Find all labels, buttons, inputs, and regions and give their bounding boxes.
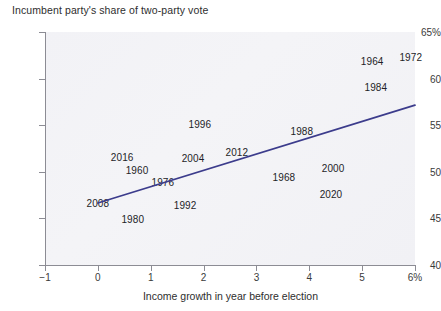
x-axis-tick-0 [98,266,99,271]
x-axis-tick-5 [362,266,363,271]
data-point-1972: 1972 [399,52,422,63]
x-axis-tick-label-3: 3 [254,272,260,283]
data-point-1996: 1996 [189,119,212,130]
y-axis-tick-label-65%: 65% [407,27,441,38]
x-axis-tick-label-1: 1 [148,272,154,283]
data-point-1960: 1960 [126,164,149,175]
y-axis-tick-label-45: 45 [407,213,441,224]
y-axis-tick-50 [39,172,45,173]
y-axis-tick-label-60: 60 [407,73,441,84]
y-axis-tick-label-40: 40 [407,260,441,271]
x-axis-tick-label-4: 4 [307,272,313,283]
chart-container: Incumbent party's share of two-party vot… [0,0,441,311]
data-point-1988: 1988 [291,125,314,136]
y-axis-tick-label-50: 50 [407,166,441,177]
x-axis-tick-4 [309,266,310,271]
y-axis-tick-55 [39,125,45,126]
y-axis-line [45,32,46,266]
data-point-1984: 1984 [365,81,388,92]
x-axis-tick-6% [415,266,416,271]
chart-title: Incumbent party's share of two-party vot… [12,4,208,16]
y-axis-tick-65% [39,32,45,33]
x-axis-tick-label-0: 0 [95,272,101,283]
data-point-2016: 2016 [111,151,134,162]
x-axis-tick-2 [204,266,205,271]
data-point-2004: 2004 [182,152,205,163]
x-axis-tick-label-2: 2 [201,272,207,283]
x-axis-tick-label-−1: −1 [39,272,50,283]
y-axis-tick-45 [39,218,45,219]
data-point-1980: 1980 [121,214,144,225]
y-axis-tick-60 [39,79,45,80]
data-point-2012: 2012 [226,147,249,158]
data-point-1968: 1968 [273,172,296,183]
y-axis-tick-label-55: 55 [407,120,441,131]
data-point-2008: 2008 [87,198,110,209]
x-axis-line [45,265,416,266]
x-axis-tick-label-6%: 6% [408,272,422,283]
data-point-1992: 1992 [174,200,197,211]
data-point-2000: 2000 [322,163,345,174]
x-axis-title: Income growth in year before election [45,290,416,302]
x-axis-tick-−1 [45,266,46,271]
data-point-1976: 1976 [152,177,175,188]
x-axis-tick-3 [256,266,257,271]
data-point-1964: 1964 [361,55,384,66]
x-axis-tick-1 [151,266,152,271]
data-point-2020: 2020 [320,189,343,200]
x-axis-tick-label-5: 5 [359,272,365,283]
